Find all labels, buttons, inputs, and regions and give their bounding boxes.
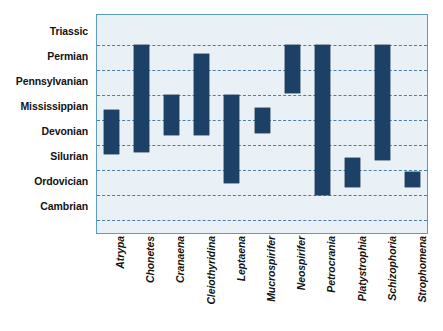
x-axis-label-group: AtrypaChonetesCranaenaCleiothyridinaLept… <box>96 234 428 331</box>
bar-platystrophia <box>345 158 360 187</box>
y-axis-tick-triassic: Triassic <box>50 25 88 37</box>
bar-neospirifer <box>285 45 300 94</box>
y-axis-label-group: TriassicPermianPennsylvanianMississippia… <box>0 14 93 234</box>
x-axis-tick-atrypa: Atrypa <box>114 236 126 269</box>
bar-strophomena <box>405 172 420 187</box>
y-axis-tick-ordovician: Ordovician <box>34 175 88 187</box>
y-axis-tick-mississippian: Mississippian <box>20 100 88 112</box>
y-axis-tick-devonian: Devonian <box>42 125 88 137</box>
x-axis-tick-platystrophia: Platystrophia <box>356 236 368 301</box>
x-axis-tick-leptaena: Leptaena <box>235 236 247 281</box>
x-axis-tick-strophomena: Strophomena <box>416 236 428 303</box>
bar-cranaena <box>164 95 179 136</box>
y-axis-tick-cambrian: Cambrian <box>40 200 88 212</box>
bar-chonetes <box>134 45 149 153</box>
y-axis-tick-permian: Permian <box>47 50 88 62</box>
bar-atrypa <box>104 110 119 154</box>
y-axis-tick-pennsylvanian: Pennsylvanian <box>16 75 88 87</box>
x-axis-tick-schizophoria: Schizophoria <box>386 236 398 301</box>
bar-cleiothyridina <box>194 54 209 135</box>
geologic-range-chart: TriassicPermianPennsylvanianMississippia… <box>0 0 443 331</box>
bar-petrocrania <box>315 45 330 195</box>
x-axis-tick-neospirifer: Neospirifer <box>295 236 307 290</box>
x-axis-tick-petrocrania: Petrocrania <box>325 236 337 293</box>
y-axis-tick-silurian: Silurian <box>50 150 88 162</box>
x-axis-tick-mucrospirifer: Mucrospirifer <box>265 236 277 302</box>
plot-panel <box>96 14 428 234</box>
x-axis-tick-cleiothyridina: Cleiothyridina <box>205 236 217 305</box>
bar-mucrospirifer <box>255 108 270 133</box>
x-axis-tick-cranaena: Cranaena <box>174 236 186 283</box>
x-axis-tick-chonetes: Chonetes <box>144 236 156 283</box>
bar-leptaena <box>224 95 239 184</box>
bar-schizophoria <box>375 45 390 161</box>
bar-group <box>97 15 427 233</box>
